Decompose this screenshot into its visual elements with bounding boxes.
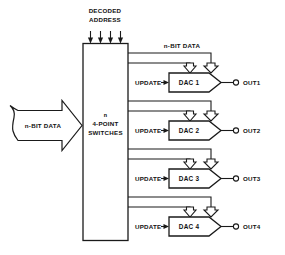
right-arrow-icon <box>164 224 170 229</box>
output-label-2: OUT2 <box>243 127 261 134</box>
data-bus-line-upper <box>128 197 211 208</box>
decoded-address-label-line2: ADDRESS <box>89 16 121 23</box>
output-terminal-1 <box>233 80 238 85</box>
right-arrow-icon <box>164 80 170 85</box>
data-bus-line-lower <box>128 159 190 160</box>
channel-group-2: DAC 2 UPDATE OUT2 <box>128 101 261 140</box>
down-block-arrow-icon <box>184 207 196 217</box>
data-bus-line-upper <box>128 101 211 112</box>
channel-group-1: DAC 1 UPDATE OUT1 <box>128 53 261 92</box>
data-bus-line-upper <box>128 53 211 64</box>
output-label-3: OUT3 <box>243 175 261 182</box>
output-label-1: OUT1 <box>243 79 261 86</box>
down-arrow-icon <box>88 31 93 44</box>
left-input-label: n-BIT DATA <box>25 122 62 129</box>
diagram-canvas: DECODED ADDRESS n-BIT DATA n 4-POINT SWI… <box>0 0 285 255</box>
down-arrow-icon <box>98 31 103 44</box>
data-bus-line-lower <box>128 111 190 112</box>
output-terminal-2 <box>233 128 238 133</box>
output-terminal-3 <box>233 176 238 181</box>
block-diagram: DECODED ADDRESS n-BIT DATA n 4-POINT SWI… <box>0 0 285 255</box>
output-terminal-4 <box>233 224 238 229</box>
decoded-address-arrows <box>88 31 123 44</box>
switch-block-label-n: n <box>104 112 107 118</box>
down-block-arrow-icon <box>204 159 218 169</box>
down-block-arrow-icon <box>184 159 196 169</box>
dac-label-2: DAC 2 <box>179 127 200 134</box>
update-label-1: UPDATE <box>135 79 161 86</box>
data-bus-line-upper <box>128 149 211 160</box>
output-label-4: OUT4 <box>243 223 261 230</box>
update-label-4: UPDATE <box>135 223 161 230</box>
dac-label-3: DAC 3 <box>179 175 200 182</box>
down-block-arrow-icon <box>204 207 218 217</box>
down-block-arrow-icon <box>184 111 196 121</box>
four-point-switches-block <box>83 44 128 241</box>
down-arrow-icon <box>108 31 113 44</box>
down-block-arrow-icon <box>204 111 218 121</box>
data-bus-line-lower <box>128 207 190 208</box>
channel-group-3: DAC 3 UPDATE OUT3 <box>128 149 261 188</box>
update-label-3: UPDATE <box>135 175 161 182</box>
right-arrow-icon <box>164 176 170 181</box>
switch-block-label-line2: 4-POINT <box>92 120 118 127</box>
bus-label: n-BIT DATA <box>164 42 201 49</box>
decoded-address-label-line1: DECODED <box>89 7 122 14</box>
down-block-arrow-icon <box>184 63 196 73</box>
dac-label-1: DAC 1 <box>179 79 200 86</box>
dac-label-4: DAC 4 <box>179 223 200 230</box>
switch-block-label-line3: SWITCHES <box>88 129 123 136</box>
channel-group-4: DAC 4 UPDATE OUT4 <box>128 197 261 236</box>
right-arrow-icon <box>164 128 170 133</box>
update-label-2: UPDATE <box>135 127 161 134</box>
down-block-arrow-icon <box>204 63 218 73</box>
down-arrow-icon <box>118 31 123 44</box>
data-bus-line-lower <box>128 63 190 64</box>
